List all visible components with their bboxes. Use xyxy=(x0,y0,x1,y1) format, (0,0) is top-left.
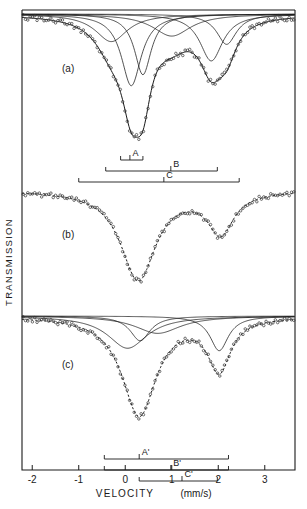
data-point xyxy=(219,375,222,378)
panel-a: (a) xyxy=(22,14,295,141)
x-axis-title: VELOCITY xyxy=(96,488,154,499)
data-point xyxy=(267,18,270,21)
x-tick-label: -1 xyxy=(74,474,83,485)
data-point xyxy=(38,192,41,195)
data-point xyxy=(288,194,291,197)
data-point xyxy=(50,192,53,195)
data-point xyxy=(31,321,34,324)
data-point xyxy=(198,340,201,343)
x-tick-label: 1 xyxy=(169,474,175,485)
brackets-upper: ABC xyxy=(79,148,239,183)
data-point xyxy=(263,324,266,327)
bracket-label: B' xyxy=(173,458,181,468)
data-point xyxy=(135,133,138,136)
data-point xyxy=(286,191,289,194)
data-point xyxy=(138,418,141,421)
data-point xyxy=(274,319,277,322)
data-point xyxy=(246,204,249,207)
data-point xyxy=(140,281,143,284)
data-point xyxy=(70,321,73,324)
data-point xyxy=(253,198,256,201)
data-point xyxy=(232,220,235,223)
data-point xyxy=(207,80,210,83)
data-point xyxy=(177,215,180,218)
data-point xyxy=(274,17,277,20)
data-point xyxy=(276,20,279,23)
data-point xyxy=(207,220,210,223)
panel-label-b: (b) xyxy=(62,229,74,240)
data-point xyxy=(52,196,55,199)
data-point xyxy=(216,237,219,240)
data-point xyxy=(24,194,27,197)
data-point xyxy=(182,54,185,57)
data-point xyxy=(221,369,224,372)
data-point xyxy=(50,17,53,20)
data-point xyxy=(154,379,157,382)
data-point xyxy=(188,341,191,344)
data-point xyxy=(163,63,166,66)
spectra-plot: -2-10123VELOCITY(mm/s)TRANSMISSION(a)(b)… xyxy=(0,0,307,509)
data-point xyxy=(54,22,57,25)
data-point xyxy=(36,19,39,22)
data-point xyxy=(57,323,60,326)
data-point xyxy=(87,332,90,335)
data-point xyxy=(258,195,261,198)
data-point xyxy=(147,402,150,405)
data-point xyxy=(40,196,43,199)
y-axis-title: TRANSMISSION xyxy=(3,218,14,306)
x-tick-label: -2 xyxy=(28,474,37,485)
panel-label-c: (c) xyxy=(62,359,74,370)
data-point xyxy=(230,224,233,227)
data-point xyxy=(256,201,259,204)
x-tick-label: 0 xyxy=(122,474,128,485)
panel-b: (b) xyxy=(22,191,295,284)
data-point xyxy=(251,25,254,28)
data-point xyxy=(253,27,256,30)
panel-c: (c) xyxy=(22,316,295,421)
data-point xyxy=(175,52,178,55)
data-point xyxy=(138,278,141,281)
data-point xyxy=(117,236,120,239)
x-axis-ticks: -2-10123 xyxy=(28,465,268,485)
bracket-label: C xyxy=(166,170,173,180)
data-point xyxy=(276,321,279,324)
x-tick-label: 2 xyxy=(215,474,221,485)
bracket-label: A xyxy=(132,148,138,158)
data-point xyxy=(98,209,101,212)
data-point xyxy=(223,71,226,74)
data-point xyxy=(200,345,203,348)
data-point xyxy=(246,329,249,332)
data-point xyxy=(142,413,145,416)
data-point xyxy=(68,325,71,328)
data-point xyxy=(54,194,57,197)
bracket-label: C' xyxy=(184,469,192,479)
data-point xyxy=(112,225,115,228)
mossbauer-figure: -2-10123VELOCITY(mm/s)TRANSMISSION(a)(b)… xyxy=(0,0,307,509)
data-point xyxy=(75,197,78,200)
component-curve xyxy=(22,14,295,85)
data-point xyxy=(265,320,268,323)
x-tick-label: 3 xyxy=(262,474,268,485)
data-point xyxy=(142,274,145,277)
data-point xyxy=(138,138,141,141)
data-point xyxy=(149,257,152,260)
data-point xyxy=(80,31,83,34)
panel-label-a: (a) xyxy=(62,63,74,74)
data-point xyxy=(172,348,175,351)
data-point xyxy=(221,73,224,76)
data-point xyxy=(27,19,30,22)
data-point xyxy=(239,210,242,213)
bracket-label: A' xyxy=(142,447,150,457)
fit-curve xyxy=(22,17,295,137)
x-axis-units: (mm/s) xyxy=(180,488,211,499)
data-point xyxy=(177,340,180,343)
data-point xyxy=(209,78,212,81)
data-point xyxy=(154,245,157,248)
data-point xyxy=(84,329,87,332)
data-point xyxy=(103,212,106,215)
data-point xyxy=(177,55,180,58)
data-point xyxy=(36,321,39,324)
bracket-label: B xyxy=(173,159,179,169)
data-point xyxy=(124,384,127,387)
data-point xyxy=(131,274,134,277)
